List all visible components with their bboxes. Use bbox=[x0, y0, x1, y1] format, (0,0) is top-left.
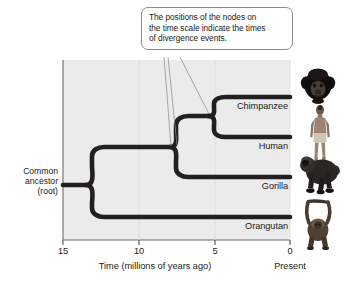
root-label-line-3: (root) bbox=[2, 186, 58, 196]
root-label-line-2: ancestor bbox=[2, 176, 58, 186]
x-tick-label-15: 15 bbox=[50, 246, 76, 256]
taxon-label-orangutan: Orangutan bbox=[198, 221, 288, 231]
present-label: Present bbox=[264, 261, 316, 271]
x-tick-label-5: 5 bbox=[202, 246, 228, 256]
phylogenetic-tree-figure: The positions of the nodes on the time s… bbox=[0, 0, 346, 284]
taxon-label-human: Human bbox=[198, 141, 288, 151]
branch-human bbox=[208, 116, 290, 137]
root-label-line-1: Common bbox=[2, 166, 58, 176]
leader-line-to-root-node bbox=[164, 57, 171, 146]
taxon-label-gorilla: Gorilla bbox=[198, 181, 288, 191]
x-tick-label-10: 10 bbox=[126, 246, 152, 256]
callout-line-1: The positions of the nodes on bbox=[149, 12, 286, 23]
taxon-label-chimpanzee: Chimpanzee bbox=[198, 101, 288, 111]
callout-line-3: of divergence events. bbox=[149, 33, 286, 44]
x-axis-title: Time (millions of years ago) bbox=[60, 261, 250, 271]
orangutan-photo bbox=[299, 197, 341, 251]
branch-root-fork-upper bbox=[86, 147, 170, 185]
callout-line-2: the time scale indicate the times bbox=[149, 23, 286, 34]
leader-line-to-gorilla-node bbox=[168, 57, 177, 145]
common-ancestor-root-label: Common ancestor (root) bbox=[2, 166, 58, 197]
chimpanzee-photo bbox=[300, 66, 336, 104]
branch-gorilla-node-lower bbox=[170, 147, 290, 177]
callout-annotation: The positions of the nodes on the time s… bbox=[141, 7, 293, 50]
gorilla-photo bbox=[296, 152, 342, 196]
